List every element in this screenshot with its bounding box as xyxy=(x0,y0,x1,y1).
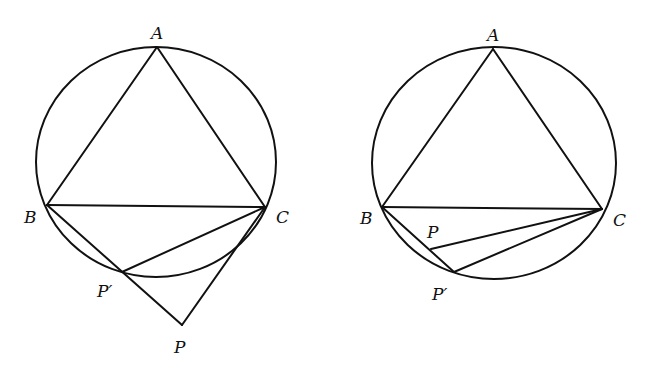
point-label-c: C xyxy=(613,210,626,230)
segment-a-b xyxy=(382,49,493,207)
segment-c-p xyxy=(182,207,265,325)
segment-a-c xyxy=(157,47,265,207)
point-label-b: B xyxy=(359,208,373,228)
point-label-p: P xyxy=(426,222,439,242)
segment-a-b xyxy=(47,47,157,205)
point-label-a: A xyxy=(485,25,499,45)
geometry-diagram: ABCP′P ABCPP′ xyxy=(0,0,659,370)
right-figure: ABCPP′ xyxy=(359,25,626,304)
point-label-b: B xyxy=(23,207,37,227)
segment-a-c xyxy=(493,49,602,209)
point-label-p: P xyxy=(173,337,186,357)
segment-b-p xyxy=(47,205,182,325)
segment-b-c xyxy=(382,207,602,209)
point-label-pp: P′ xyxy=(431,284,447,304)
circumcircle xyxy=(372,47,616,279)
point-label-a: A xyxy=(149,23,163,43)
segment-c-p xyxy=(431,209,602,249)
segment-c-pp xyxy=(454,209,602,272)
left-figure: ABCP′P xyxy=(23,23,289,357)
segment-b-pp xyxy=(382,207,454,272)
segment-b-c xyxy=(47,205,265,207)
point-label-pp: P′ xyxy=(96,281,112,301)
point-label-c: C xyxy=(276,207,289,227)
